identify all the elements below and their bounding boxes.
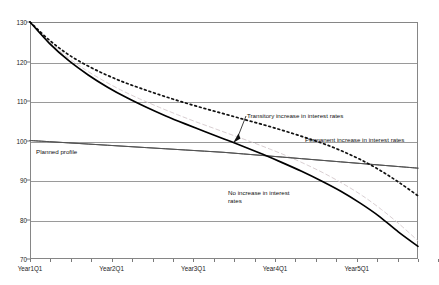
x-tick-mark — [132, 259, 133, 262]
x-tick-label: Year5Q1 — [344, 265, 369, 272]
x-tick-mark — [112, 259, 113, 262]
x-tick-label: Year4Q1 — [263, 265, 288, 272]
annotation-planned-profile: Planned profile — [36, 148, 77, 156]
series-line — [30, 141, 418, 169]
chart-title — [0, 0, 432, 5]
x-tick-label: Year3Q1 — [181, 265, 206, 272]
x-tick-mark — [153, 259, 154, 262]
series-line — [30, 141, 418, 169]
x-tick-mark — [295, 259, 296, 262]
series-line — [30, 22, 418, 246]
x-axis: Year1Q1Year2Q1Year3Q1Year4Q1Year5Q1 — [0, 259, 432, 285]
series-line — [30, 22, 418, 241]
x-tick-mark — [50, 259, 51, 262]
x-tick-label: Year1Q1 — [18, 265, 43, 272]
x-tick-mark — [336, 259, 337, 262]
x-tick-mark — [255, 259, 256, 262]
x-tick-mark — [234, 259, 235, 262]
annotation-transitory-increase: Transitory increase in interest rates — [247, 112, 343, 120]
x-tick-mark — [377, 259, 378, 262]
annotation-permanent-increase: Permanent increase in interest rates — [305, 136, 404, 144]
x-tick-mark — [214, 259, 215, 262]
x-tick-mark — [91, 259, 92, 262]
x-tick-mark — [71, 259, 72, 262]
x-tick-mark — [275, 259, 276, 262]
x-tick-mark — [357, 259, 358, 262]
x-tick-mark — [316, 259, 317, 262]
series-line — [30, 22, 418, 196]
x-tick-mark — [398, 259, 399, 262]
y-axis: 708090100110120130 — [0, 0, 30, 285]
annotation-no-increase: No increase in interest rates — [228, 189, 292, 206]
x-tick-mark — [30, 259, 31, 262]
x-tick-mark — [173, 259, 174, 262]
x-tick-mark — [193, 259, 194, 262]
x-tick-label: Year2Q1 — [99, 265, 124, 272]
x-tick-mark — [418, 259, 419, 262]
